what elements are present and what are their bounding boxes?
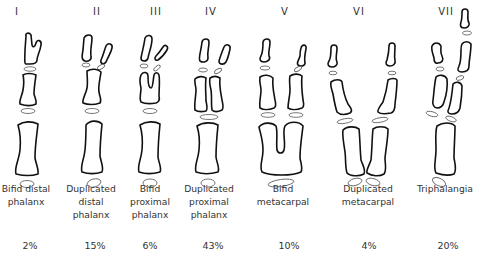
- distal-phalanx-ulnar: [219, 45, 230, 64]
- caption-line: phalanx: [2, 195, 50, 208]
- caption-line: proximal: [130, 195, 170, 208]
- metacarpal: [138, 122, 160, 174]
- metacarpal: [16, 122, 39, 176]
- distal-phalanx-radial: [199, 39, 209, 62]
- distal-phalanx-ulnar: [155, 46, 168, 61]
- metacarpal-radial: [343, 127, 365, 176]
- proximal-phalanx-ulnar: [378, 79, 397, 114]
- proximal-phalanx-radial: [195, 77, 207, 112]
- proximal-phalanx-radial: [260, 75, 276, 109]
- proximal-phalanx-ulnar: [448, 82, 462, 114]
- distal-phalanx-radial: [260, 39, 270, 62]
- proximal-phalanx-radial: [433, 75, 448, 108]
- proximal-phalanx: [83, 69, 101, 104]
- proximal-phalanx-ulnar: [288, 74, 304, 109]
- type-3-thumb: [138, 35, 167, 187]
- type-4-incidence: 43%: [202, 240, 223, 251]
- type-2-thumb: [81, 35, 112, 189]
- bifid-metacarpal: [259, 122, 303, 175]
- type-1-incidence: 2%: [22, 240, 37, 251]
- proximal-phalanx-radial: [331, 80, 352, 115]
- distal-phalanx-radial: [141, 35, 152, 61]
- type-5-incidence: 10%: [278, 240, 299, 251]
- distal-phalanx-radial: [432, 43, 443, 63]
- distal-phalanx-ulnar: [297, 45, 306, 66]
- caption-line: Bifid: [257, 182, 309, 195]
- type-2-incidence: 15%: [84, 240, 105, 251]
- caption-line: proximal: [184, 195, 234, 208]
- caption-line: Duplicated: [184, 182, 234, 195]
- distal-phalanx-ulnar: [101, 44, 112, 64]
- type-5-thumb: [259, 39, 306, 188]
- caption-line: distal: [66, 195, 116, 208]
- proximal-phalanx-ulnar: [210, 77, 224, 112]
- type-7-caption: Triphalangia: [417, 182, 473, 195]
- metacarpal: [435, 123, 456, 175]
- caption-line: Duplicated: [342, 182, 394, 195]
- distal-phalanx-radial: [82, 35, 92, 61]
- type-1-thumb: [16, 33, 42, 187]
- metacarpal-ulnar: [367, 127, 388, 176]
- bone-drawings: [0, 0, 485, 262]
- type-6-incidence: 4%: [361, 240, 376, 251]
- proximal-phalanx: [20, 74, 36, 106]
- type-4-caption: Duplicated proximal phalanx: [184, 182, 234, 221]
- middle-phalanx-ulnar: [458, 42, 471, 72]
- caption-line: Duplicated: [66, 182, 116, 195]
- bifid-distal-phalanx: [25, 33, 41, 64]
- caption-line: Triphalangia: [417, 182, 473, 195]
- caption-line: phalanx: [184, 208, 234, 221]
- type-2-caption: Duplicated distal phalanx: [66, 182, 116, 221]
- type-4-thumb: [195, 39, 230, 187]
- caption-line: Bifid: [130, 182, 170, 195]
- type-3-incidence: 6%: [142, 240, 157, 251]
- metacarpal: [81, 121, 102, 173]
- distal-phalanx-ulnar: [460, 9, 469, 28]
- type-6-thumb: [328, 43, 397, 187]
- distal-phalanx-ulnar: [386, 43, 395, 66]
- caption-line: phalanx: [130, 208, 170, 221]
- type-3-caption: Bifid proximal phalanx: [130, 182, 170, 221]
- type-6-caption: Duplicated metacarpal: [342, 182, 394, 208]
- type-1-caption: Bifid distal phalanx: [2, 182, 50, 208]
- polydactyly-classification-diagram: I II III IV V VI VII: [0, 0, 485, 262]
- caption-line: phalanx: [66, 208, 116, 221]
- metacarpal: [195, 123, 218, 174]
- bifid-proximal-phalanx: [140, 72, 160, 103]
- caption-line: Bifid distal: [2, 182, 50, 195]
- caption-line: metacarpal: [257, 195, 309, 208]
- type-7-thumb: [426, 9, 472, 188]
- caption-line: metacarpal: [342, 195, 394, 208]
- type-5-caption: Bifid metacarpal: [257, 182, 309, 208]
- distal-phalanx-radial: [328, 45, 337, 67]
- type-7-incidence: 20%: [437, 240, 458, 251]
